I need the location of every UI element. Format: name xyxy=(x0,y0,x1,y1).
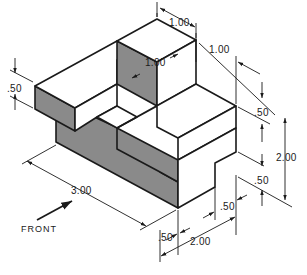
dim-label-height-2.00: 2.00 xyxy=(276,152,297,163)
dim-label-inner-1.00: 1.00 xyxy=(145,57,166,68)
dim-label-front-.50: .50 xyxy=(158,232,173,243)
isometric-drawing: 1.00 1.00 1.00 .50 .50 2.00 .50 .50 .50 … xyxy=(0,0,307,275)
dim-label-right-lower-.50: .50 xyxy=(254,175,269,186)
front-label: FRONT xyxy=(21,224,57,234)
dim-label-right-1.00: 1.00 xyxy=(209,44,230,55)
dim-label-depth-2.00: 2.00 xyxy=(190,236,211,247)
dim-label-notch-.50: .50 xyxy=(220,201,235,212)
dim-label-right-upper-.50: .50 xyxy=(254,107,269,118)
drawing-canvas: 1.00 1.00 1.00 .50 .50 2.00 .50 .50 .50 … xyxy=(0,0,307,275)
part-solid xyxy=(35,19,236,208)
dim-label-top-1.00: 1.00 xyxy=(169,17,190,28)
dim-label-left-.50: .50 xyxy=(7,83,22,94)
dim-label-length-3.00: 3.00 xyxy=(71,185,92,196)
